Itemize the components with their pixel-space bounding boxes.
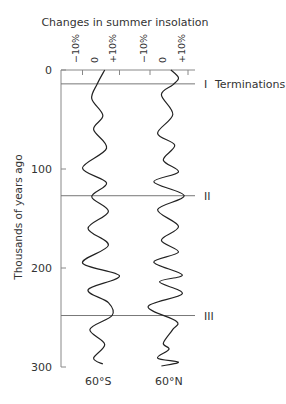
curves — [82, 70, 184, 366]
x-tick-label: 0 — [157, 57, 168, 63]
x-tick-label: +10% — [176, 34, 187, 63]
chart-title: Changes in summer insolation — [41, 16, 208, 29]
insolation-chart: Changes in summer insolation Thousands o… — [0, 0, 286, 404]
y-tick-label: 0 — [45, 64, 52, 77]
y-tick-label: 200 — [31, 262, 52, 275]
x-tick-label: 0 — [89, 57, 100, 63]
y-tick-label: 300 — [31, 361, 52, 374]
y-axis-label: Thousands of years ago — [12, 154, 24, 280]
panel-label: 60°N — [155, 375, 183, 388]
termination-label: I — [204, 78, 207, 91]
panel-label: 60°S — [85, 375, 111, 388]
termination-label: II — [204, 190, 211, 203]
x-tick-label: −10% — [70, 34, 81, 63]
x-ticks: −10%0+10%−10%0+10% — [70, 34, 188, 75]
insolation-curve-60n — [148, 70, 184, 366]
insolation-curve-60s — [82, 70, 119, 364]
y-tick-label: 100 — [31, 163, 52, 176]
termination-label: III — [204, 310, 214, 323]
x-tick-label: −10% — [138, 34, 149, 63]
x-tick-label: +10% — [107, 34, 118, 63]
panel-labels: 60°S60°N — [85, 375, 183, 388]
terminations-title: Terminations — [214, 78, 286, 91]
